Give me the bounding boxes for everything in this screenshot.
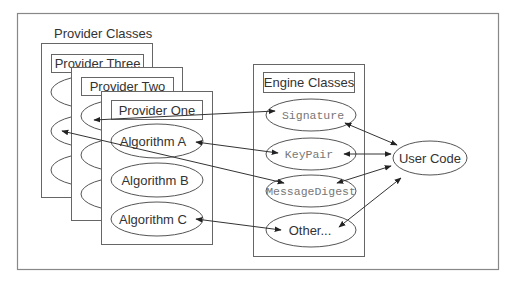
engine-classes-box: Engine Classes Signature KeyPair Message… [254, 65, 365, 257]
engine-classes-title: Engine Classes [264, 75, 355, 90]
user-code-label: User Code [399, 151, 461, 166]
keypair-label: KeyPair [285, 148, 333, 161]
other-label: Other... [289, 223, 332, 238]
signature-label: Signature [282, 109, 344, 122]
diagram-canvas: Provider Classes Provider Three Provider… [0, 0, 513, 283]
algorithm-b-label: Algorithm B [121, 173, 188, 188]
messagedigest-label: MessageDigest [266, 185, 356, 198]
algorithm-c-label: Algorithm C [119, 212, 187, 227]
provider-classes-label: Provider Classes [54, 26, 153, 41]
